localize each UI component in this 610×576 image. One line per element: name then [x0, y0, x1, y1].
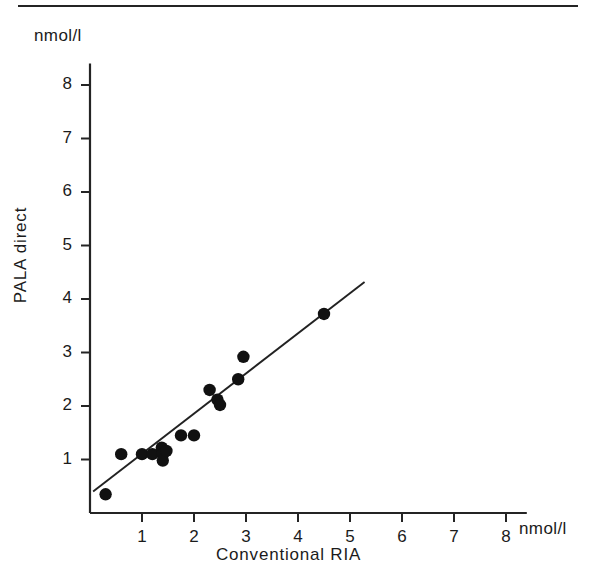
x-axis-title: Conventional RIA [216, 545, 361, 565]
data-point [175, 429, 187, 441]
x-tick-label: 3 [235, 527, 257, 547]
y-tick-label: 2 [54, 395, 72, 415]
x-tick-label: 7 [443, 527, 465, 547]
y-tick-label: 3 [54, 342, 72, 362]
x-axis-unit-label: nmol/l [519, 519, 567, 539]
data-point [214, 399, 226, 411]
x-tick-label: 8 [495, 527, 517, 547]
y-tick-label: 7 [54, 128, 72, 148]
data-point [115, 448, 127, 460]
x-tick-label: 4 [287, 527, 309, 547]
x-tick-label: 5 [339, 527, 361, 547]
y-tick-label: 6 [54, 181, 72, 201]
y-axis-unit-label: nmol/l [34, 26, 82, 46]
data-point [203, 384, 215, 396]
data-point [99, 488, 111, 500]
data-point [232, 373, 244, 385]
scatter-plot-svg [0, 0, 610, 576]
y-tick-label: 5 [54, 235, 72, 255]
data-point [160, 445, 172, 457]
data-points-group [99, 308, 330, 501]
y-axis-title: PALA direct [11, 195, 31, 315]
y-tick-label: 4 [54, 288, 72, 308]
x-tick-label: 6 [391, 527, 413, 547]
data-point [188, 429, 200, 441]
y-tick-label: 8 [54, 74, 72, 94]
data-point [237, 351, 249, 363]
x-tick-label: 1 [131, 527, 153, 547]
data-point [318, 308, 330, 320]
x-tick-label: 2 [183, 527, 205, 547]
figure-panel: nmol/l nmol/l PALA direct Conventional R… [0, 0, 610, 576]
y-tick-label: 1 [54, 449, 72, 469]
